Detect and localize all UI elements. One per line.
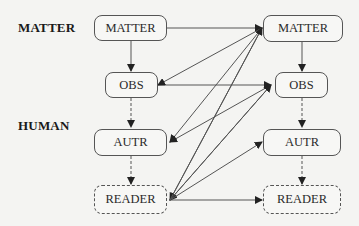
node-right-reader: READER [263,185,341,214]
node-right-matter: MATTER [263,15,343,42]
node-left-matter: MATTER [94,15,167,41]
node-right-obs: OBS [275,72,328,98]
edge-robs-lautr [170,85,271,142]
node-left-reader: READER [94,185,167,214]
edge-lreader-rmatter [170,28,262,200]
edge-lreader-rautr [170,142,262,200]
node-right-autr: AUTR [263,129,341,156]
edge-lreader-robs [170,85,271,200]
node-left-obs: OBS [105,72,158,98]
node-left-autr: AUTR [94,129,167,156]
